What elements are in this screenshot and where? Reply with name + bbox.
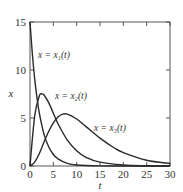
chart: 0 5 10 15 0 5 10 15 20 25 30 t x x = x₁(… xyxy=(0,0,183,192)
curve-label-x2: x = x₂(t) xyxy=(54,91,87,102)
x-tick-30: 30 xyxy=(165,168,177,180)
x-tick-5: 5 xyxy=(51,168,57,180)
x-tick-0: 0 xyxy=(27,168,33,180)
y-tick-5: 5 xyxy=(21,112,27,124)
curve-x3 xyxy=(30,114,170,166)
x-tick-20: 20 xyxy=(118,168,130,180)
y-axis-label: x xyxy=(8,87,14,99)
x-tick-25: 25 xyxy=(141,168,153,180)
x-tick-10: 10 xyxy=(71,168,83,180)
y-tick-15: 15 xyxy=(15,16,27,28)
y-tick-10: 10 xyxy=(15,64,27,76)
curve-x1 xyxy=(30,22,170,166)
y-tick-0: 0 xyxy=(21,160,27,172)
curves xyxy=(30,22,170,166)
plot-frame xyxy=(30,22,170,166)
curve-label-x1: x = x₁(t) xyxy=(37,50,70,61)
x-axis-label: t xyxy=(98,179,102,191)
curve-label-x3: x = x₃(t) xyxy=(93,123,126,134)
axis-ticks xyxy=(30,22,170,166)
